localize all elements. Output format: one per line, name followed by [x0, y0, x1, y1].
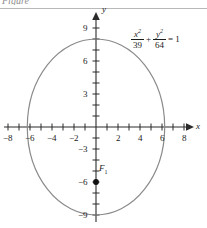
- y-tick-label-9: 9: [83, 24, 88, 33]
- x-tick-label-neg2: −2: [69, 134, 79, 143]
- ellipse-figure: Figure: [0, 0, 207, 228]
- equation-right-denominator: 64: [153, 40, 166, 50]
- equation-left-numerator: x2: [132, 28, 143, 39]
- focus-point-f1: [93, 179, 99, 185]
- equation-plus-operator: +: [146, 35, 151, 44]
- equation-right-exponent: 2: [160, 28, 163, 34]
- ellipse-equation: x2 39 + y2 64 = 1: [130, 28, 181, 50]
- x-tick-label-2: 2: [116, 134, 121, 143]
- x-tick-label-8: 8: [182, 134, 187, 143]
- focus-label-f1: F1: [99, 164, 108, 177]
- equation-equals-sign: =: [168, 35, 173, 44]
- x-tick-label-neg4: −4: [47, 134, 57, 143]
- x-tick-label-neg6: −6: [25, 134, 35, 143]
- x-tick-label-4: 4: [138, 134, 143, 143]
- y-axis-arrowhead: [92, 12, 100, 20]
- equation-left-exponent: 2: [138, 28, 141, 34]
- equation-right-numerator: y2: [154, 28, 165, 39]
- y-tick-label-6: 6: [83, 57, 88, 66]
- equation-left-fraction: x2 39: [131, 28, 144, 50]
- y-tick-label-neg9: −9: [78, 211, 88, 220]
- equation-left-denominator: 39: [131, 40, 144, 50]
- y-tick-label-neg6: −6: [78, 178, 88, 187]
- equation-right-fraction: y2 64: [153, 28, 166, 50]
- x-tick-label-neg8: −8: [3, 134, 13, 143]
- x-axis-arrowhead: [186, 123, 194, 131]
- y-axis-label: y: [102, 5, 106, 14]
- y-tick-label-3: 3: [83, 90, 88, 99]
- equation-result: 1: [175, 35, 180, 44]
- x-tick-label-6: 6: [160, 134, 165, 143]
- y-tick-label-neg3: −3: [78, 145, 88, 154]
- focus-label-subscript: 1: [105, 169, 108, 175]
- x-axis-label: x: [196, 122, 200, 131]
